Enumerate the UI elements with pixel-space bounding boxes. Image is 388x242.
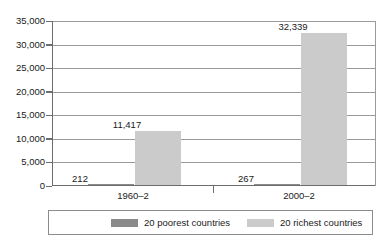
y-axis-label-35000: 35,000 bbox=[0, 16, 45, 26]
bar-poorest-1960[interactable] bbox=[88, 184, 134, 185]
legend-swatch-poorest-icon bbox=[111, 219, 138, 227]
y-axis-label-0: 0 bbox=[0, 181, 45, 191]
y-axis-label-20000: 20,000 bbox=[0, 87, 45, 97]
bar-value-richest-1960: 11,417 bbox=[104, 120, 150, 130]
x-axis-label-1960: 1960–2 bbox=[87, 190, 179, 201]
x-axis-label-2000: 2000–2 bbox=[253, 190, 345, 201]
y-axis-label-15000: 15,000 bbox=[0, 110, 45, 120]
plot-area bbox=[52, 21, 375, 186]
bar-value-poorest-2000: 267 bbox=[223, 174, 269, 184]
plot-right-border bbox=[375, 21, 376, 186]
legend-label-poorest: 20 poorest countries bbox=[144, 217, 230, 228]
bar-richest-2000[interactable] bbox=[301, 33, 347, 186]
y-axis-label-25000: 25,000 bbox=[0, 63, 45, 73]
bar-richest-1960[interactable] bbox=[135, 131, 181, 185]
bar-chart: 35,000 30,000 25,000 20,000 15,000 10,00… bbox=[0, 0, 388, 242]
legend-swatch-richest-icon bbox=[247, 219, 274, 227]
legend: 20 poorest countries 20 richest countrie… bbox=[48, 210, 373, 235]
legend-entry-poorest[interactable]: 20 poorest countries bbox=[111, 217, 230, 228]
bar-value-poorest-1960: 212 bbox=[57, 174, 103, 184]
legend-entry-richest[interactable]: 20 richest countries bbox=[247, 217, 362, 228]
x-axis-tick-separator bbox=[213, 186, 214, 193]
legend-label-richest: 20 richest countries bbox=[280, 217, 362, 228]
y-axis-label-30000: 30,000 bbox=[0, 40, 45, 50]
y-axis-label-5000: 5,000 bbox=[0, 157, 45, 167]
y-axis-label-10000: 10,000 bbox=[0, 134, 45, 144]
bar-value-richest-2000: 32,339 bbox=[270, 22, 316, 32]
